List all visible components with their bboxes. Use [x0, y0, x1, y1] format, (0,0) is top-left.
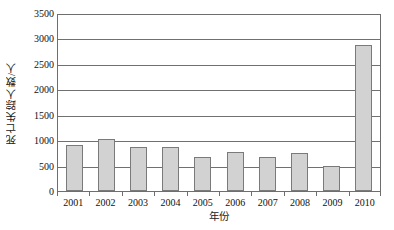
y-axis-tick-label: 1500 [20, 111, 54, 121]
x-axis-title: 年份 [57, 210, 381, 224]
y-axis-tick-label: 3500 [20, 9, 54, 19]
x-axis-tick-label: 2001 [57, 196, 89, 210]
bar-2010[interactable] [355, 45, 372, 191]
x-axis-tick-label: 2007 [251, 196, 283, 210]
bar-slot [187, 15, 219, 191]
bar-slot [219, 15, 251, 191]
y-axis-tick-label: 2500 [20, 60, 54, 70]
y-axis-tick-label: 2000 [20, 85, 54, 95]
bar-2004[interactable] [162, 147, 179, 191]
bar-2009[interactable] [323, 166, 340, 191]
x-axis-tick-label: 2006 [219, 196, 251, 210]
y-axis-title: 死亡失踪人数/人 [2, 38, 20, 168]
x-axis-tick-label: 2004 [154, 196, 186, 210]
y-axis-title-text: 死亡失踪人数/人 [4, 61, 19, 145]
bar-slot [155, 15, 187, 191]
bar-2002[interactable] [98, 139, 115, 191]
bar-2008[interactable] [291, 153, 308, 191]
x-axis-tick-label: 2008 [284, 196, 316, 210]
bar-slot [348, 15, 380, 191]
y-axis-tick-labels: 0500100015002000250030003500 [20, 0, 54, 230]
y-axis-tick-label: 500 [20, 162, 54, 172]
bar-slot [251, 15, 283, 191]
x-axis-tick-label: 2002 [89, 196, 121, 210]
x-axis-tick-label: 2010 [349, 196, 381, 210]
x-axis-tick-labels: 2001200220032004200520062007200820092010 [57, 196, 381, 210]
y-axis-tick-label: 1000 [20, 136, 54, 146]
bar-slot [316, 15, 348, 191]
x-axis-tick-label: 2003 [122, 196, 154, 210]
bars-layer [58, 15, 380, 191]
bar-2001[interactable] [66, 145, 83, 191]
bar-chart-figure: 死亡失踪人数/人 0500100015002000250030003500 20… [0, 0, 394, 230]
x-axis-tick-label: 2005 [187, 196, 219, 210]
bar-2003[interactable] [130, 147, 147, 191]
y-axis-tick-label: 0 [20, 187, 54, 197]
bar-slot [283, 15, 315, 191]
bar-slot [90, 15, 122, 191]
bar-slot [58, 15, 90, 191]
bar-2005[interactable] [194, 157, 211, 191]
bar-slot [122, 15, 154, 191]
bar-2006[interactable] [227, 152, 244, 191]
x-axis-tick-label: 2009 [316, 196, 348, 210]
plot-area [57, 14, 381, 192]
y-axis-tick-label: 3000 [20, 34, 54, 44]
bar-2007[interactable] [259, 157, 276, 191]
